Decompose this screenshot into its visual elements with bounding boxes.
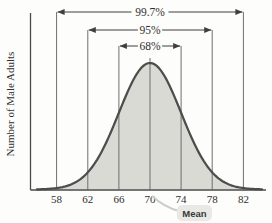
interval-label-68%: 68% [139, 40, 161, 52]
x-tick-label-82: 82 [238, 193, 249, 205]
empirical-rule-distribution-figure: 99.7%95%68%58626670747882Number of Male … [0, 0, 272, 223]
x-tick-label-66: 66 [113, 193, 125, 205]
interval-label-99.7%: 99.7% [135, 6, 165, 18]
x-tick-label-74: 74 [176, 193, 188, 205]
interval-label-95%: 95% [139, 24, 161, 36]
x-tick-label-58: 58 [51, 193, 63, 205]
x-tick-label-78: 78 [207, 193, 219, 205]
bell-curve-chart: 99.7%95%68%58626670747882Number of Male … [0, 0, 272, 223]
x-tick-label-62: 62 [82, 193, 93, 205]
y-axis-title: Number of Male Adults [4, 52, 16, 157]
mean-callout-label: Mean [182, 208, 206, 219]
